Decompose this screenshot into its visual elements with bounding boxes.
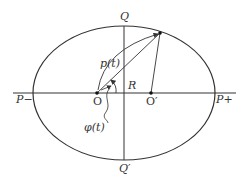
label-o: O: [93, 95, 102, 108]
point-orbit: [158, 31, 162, 35]
label-p-minus: P−: [15, 93, 33, 106]
label-o-prime: O′: [146, 95, 158, 108]
label-q-prime: Q′: [119, 162, 131, 175]
label-q: Q: [120, 10, 129, 23]
focal-line: [151, 33, 160, 93]
label-r: R: [127, 79, 136, 92]
label-phi-t: φ(t): [84, 121, 105, 134]
ellipse-diagram: Q Q′ P− P+ R O O′ p(t) φ(t): [0, 0, 245, 183]
label-p-plus: P+: [215, 93, 233, 106]
label-p-t: p(t): [100, 57, 120, 70]
angle-arc: [111, 80, 116, 93]
